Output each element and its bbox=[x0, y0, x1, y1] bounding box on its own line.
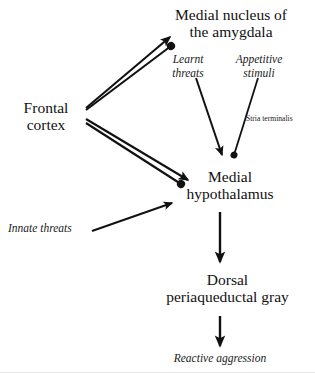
scan-edge-artifact bbox=[0, 372, 315, 373]
node-frontal-cortex-line2: cortex bbox=[4, 116, 88, 133]
edge-learnt-threats-to-hypothalamus bbox=[196, 78, 222, 155]
node-frontal-cortex-line1: Frontal bbox=[4, 99, 88, 116]
node-medial-amygdala-line1: Medial nucleus of bbox=[152, 6, 310, 23]
annotation-learnt-threats-line2: threats bbox=[160, 67, 216, 81]
node-medial-amygdala: Medial nucleus of the amygdala bbox=[152, 6, 310, 41]
annotation-appetitive-stimuli: Appetitive stimuli bbox=[224, 53, 294, 80]
annotation-reactive-aggression: Reactive aggression bbox=[150, 352, 290, 366]
annotation-reactive-aggression-line1: Reactive aggression bbox=[150, 352, 290, 366]
annotation-learnt-threats-line1: Learnt bbox=[160, 53, 216, 67]
annotation-appetitive-stimuli-line2: stimuli bbox=[224, 67, 294, 81]
edge-frontal-to-amygdala-arrow bbox=[86, 37, 170, 108]
annotation-innate-threats: Innate threats bbox=[8, 222, 96, 236]
edge-innate-threats-to-hypothalamus bbox=[92, 203, 172, 231]
annotation-appetitive-stimuli-line1: Appetitive bbox=[224, 53, 294, 67]
node-dorsal-periaqueductal-gray-line1: Dorsal bbox=[140, 271, 315, 288]
node-frontal-cortex: Frontal cortex bbox=[4, 99, 88, 134]
node-dorsal-periaqueductal-gray-line2: periaqueductal gray bbox=[140, 288, 315, 305]
edge-frontal-to-amygdala-circle bbox=[86, 46, 171, 110]
annotation-innate-threats-line1: Innate threats bbox=[8, 222, 96, 236]
node-medial-amygdala-line2: the amygdala bbox=[152, 23, 310, 40]
node-dorsal-periaqueductal-gray: Dorsal periaqueductal gray bbox=[140, 271, 315, 306]
node-medial-hypothalamus: Medial hypothalamus bbox=[150, 168, 310, 203]
tract-label-stria-terminalis: Stria terminalis bbox=[246, 114, 293, 123]
node-medial-hypothalamus-line1: Medial bbox=[150, 168, 310, 185]
diagram-canvas: Medial nucleus of the amygdala Frontal c… bbox=[0, 0, 315, 374]
annotation-learnt-threats: Learnt threats bbox=[160, 53, 216, 80]
node-medial-hypothalamus-line2: hypothalamus bbox=[150, 185, 310, 202]
